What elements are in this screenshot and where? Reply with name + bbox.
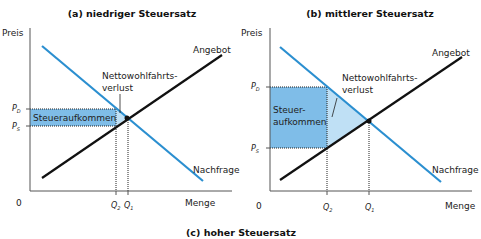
supply-label: Angebot <box>193 45 231 55</box>
q2-label: Q2 <box>323 203 332 213</box>
demand-label: Nachfrage <box>193 165 240 175</box>
panel-b-title: (b) mittlerer Steuersatz <box>306 8 434 19</box>
tax-deadweight-diagram: (a) niedriger Steuersatz Preis Menge 0 A… <box>0 0 481 239</box>
ps-label: PS <box>12 122 21 132</box>
origin-label: 0 <box>16 198 22 208</box>
supply-label: Angebot <box>432 48 470 58</box>
panel-a-title: (a) niedriger Steuersatz <box>68 8 197 19</box>
y-axis-label: Preis <box>241 28 263 38</box>
equilibrium-point <box>367 119 372 124</box>
equilibrium-point <box>125 116 130 121</box>
x-axis-label: Menge <box>445 201 476 211</box>
deadweight-label-2: verlust <box>342 85 373 95</box>
panel-b: (b) mittlerer Steuersatz Preis Menge 0 A… <box>241 8 479 213</box>
q1-label: Q1 <box>365 203 374 213</box>
y-axis-label: Preis <box>2 28 24 38</box>
q2-label: Q2 <box>111 201 120 211</box>
pd-label: PD <box>12 104 21 114</box>
tax-revenue-label-1: Steuer- <box>273 105 305 115</box>
deadweight-label-1: Nettowohlfahrts- <box>102 71 177 81</box>
pd-label: PD <box>251 82 260 92</box>
x-axis-label: Menge <box>185 198 216 208</box>
origin-label: 0 <box>256 201 262 211</box>
panel-a: (a) niedriger Steuersatz Preis Menge 0 A… <box>2 8 240 211</box>
demand-label: Nachfrage <box>432 165 479 175</box>
deadweight-label-1: Nettowohlfahrts- <box>342 73 417 83</box>
ps-label: PS <box>251 144 260 154</box>
panel-c-title: (c) hoher Steuersatz <box>186 227 296 238</box>
tax-revenue-label-2: aufkommen <box>273 117 327 127</box>
deadweight-label-2: verlust <box>102 83 133 93</box>
tax-revenue-label: Steueraufkommen <box>33 113 116 123</box>
q1-label: Q1 <box>124 201 133 211</box>
